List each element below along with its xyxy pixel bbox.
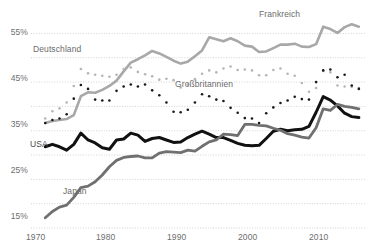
x-tick-label-2010: 2010 <box>309 232 328 242</box>
series-label-deutschland: Deutschland <box>33 44 81 54</box>
series-label-frankreich: Frankreich <box>259 9 300 19</box>
y-tick-label-55: 55% <box>4 27 28 37</box>
x-tick-label-1980: 1980 <box>96 232 115 242</box>
series-label-japan: Japan <box>63 186 87 196</box>
series-layer <box>44 24 360 218</box>
series-usa <box>45 97 359 150</box>
x-tick-label-1990: 1990 <box>167 232 186 242</box>
series-label-usa: USA <box>30 139 48 149</box>
x-tick-label-1970: 1970 <box>26 232 45 242</box>
y-tick-label-45: 45% <box>4 73 28 83</box>
chart-plot-area <box>0 0 370 252</box>
series-label-grossbritannien: Großbritannien <box>175 79 233 89</box>
y-tick-label-25: 25% <box>4 165 28 175</box>
x-tick-label-2000: 2000 <box>238 232 257 242</box>
line-chart: 55% 45% 35% 25% 15% 1970 1980 1990 2000 … <box>0 0 370 252</box>
y-tick-label-15: 15% <box>4 211 28 221</box>
y-tick-label-35: 35% <box>4 119 28 129</box>
